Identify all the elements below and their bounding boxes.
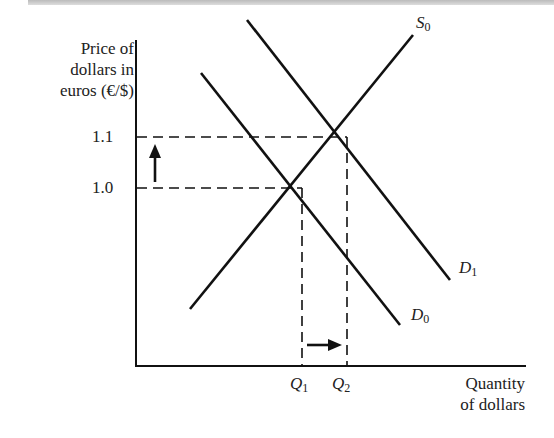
x-label-line1: Quantity (420, 373, 525, 394)
y-label-line2: dollars in (60, 59, 134, 80)
y-label-line1: Price of (60, 38, 134, 59)
s0-label: S0 (416, 12, 431, 38)
supply-curve-s0 (190, 35, 413, 309)
x-label-line2: of dollars (420, 394, 525, 415)
guide-lines (137, 137, 347, 365)
q2-label: Q2 (332, 373, 350, 399)
demand-curve-d1 (247, 20, 450, 280)
tick-1-0: 1.0 (92, 177, 113, 198)
y-axis-label: Price of dollars in euros (€/$) (60, 38, 134, 101)
price-up-arrow (149, 144, 161, 182)
y-label-line3: euros (€/$) (60, 80, 134, 101)
q1-label: Q1 (290, 373, 308, 399)
quantity-right-arrow (307, 339, 342, 351)
x-axis-label: Quantity of dollars (420, 373, 525, 415)
tick-1-1: 1.1 (92, 126, 113, 147)
exchange-rate-diagram: Price of dollars in euros (€/$) 1.1 1.0 … (0, 0, 554, 438)
d0-label: D0 (411, 304, 429, 330)
demand-curve-d0 (201, 73, 400, 325)
d1-label: D1 (459, 257, 477, 283)
